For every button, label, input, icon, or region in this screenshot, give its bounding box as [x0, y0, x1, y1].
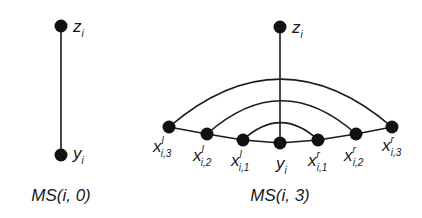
- node-label-0-z: zi: [72, 17, 85, 39]
- node-label-1-y: yi: [275, 154, 288, 176]
- node-1-r1: [312, 134, 325, 147]
- caption-ms-i-3: MS(i, 3): [250, 186, 310, 205]
- node-label-1-r1: xri,1: [307, 149, 327, 173]
- node-label-1-l2: xli,2: [192, 144, 212, 168]
- node-0-z: [55, 20, 68, 33]
- diagram-canvas: ziyiziyixli,1xli,2xli,3xri,1xri,2xri,3 M…: [0, 0, 422, 218]
- node-label-1-r3: xri,3: [381, 134, 402, 158]
- node-1-y: [274, 137, 287, 150]
- node-1-l2: [201, 128, 214, 141]
- edges-layer: [61, 26, 392, 155]
- node-1-l3: [163, 121, 176, 134]
- arc-1-l2-r2: [207, 101, 356, 134]
- node-1-l1: [237, 134, 250, 147]
- labels-layer: ziyiziyixli,1xli,2xli,3xri,1xri,2xri,3: [72, 17, 402, 176]
- node-label-1-z: zi: [291, 18, 304, 40]
- node-1-r3: [386, 121, 399, 134]
- node-label-1-l1: xli,1: [230, 149, 249, 173]
- node-1-r2: [350, 128, 363, 141]
- node-1-z: [274, 21, 287, 34]
- node-label-1-r2: xri,2: [343, 144, 364, 168]
- node-label-0-y: yi: [72, 144, 85, 166]
- node-label-1-l3: xli,3: [152, 135, 172, 159]
- node-0-y: [55, 149, 68, 162]
- caption-ms-i-0: MS(i, 0): [31, 186, 91, 205]
